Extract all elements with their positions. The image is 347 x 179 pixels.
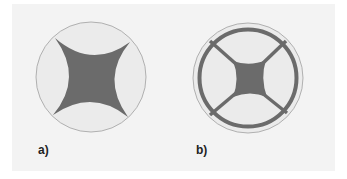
- diagram-b: [193, 23, 303, 133]
- diagram-a: [36, 22, 146, 132]
- label-b: b): [196, 143, 207, 157]
- concave-square-center: [233, 60, 267, 97]
- diagram-canvas: [0, 0, 347, 179]
- label-a: a): [38, 143, 49, 157]
